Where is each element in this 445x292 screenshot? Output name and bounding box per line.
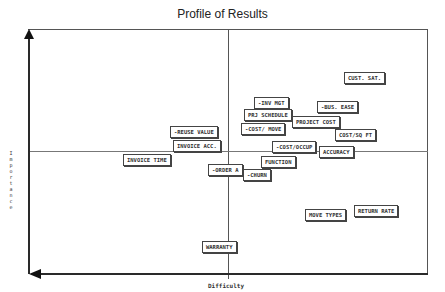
data-point-label: PROJECT COST: [292, 116, 340, 128]
data-point-label: RETURN RATE: [354, 205, 398, 217]
data-point-label: -ORDER A: [208, 164, 243, 176]
data-point-label: -CHURN: [243, 169, 271, 181]
data-point-label: COST/SQ FT: [335, 129, 376, 141]
data-point-label: -INV MGT: [254, 97, 289, 109]
horizontal-midline: [28, 151, 428, 152]
arrow-up-icon: [24, 29, 34, 39]
data-point-label: INVOICE TIME: [123, 154, 171, 166]
data-point-label: CUST. SAT.: [344, 72, 385, 84]
data-point-label: PRJ SCHEDULE: [244, 109, 292, 121]
data-point-label: FUNCTION: [261, 156, 296, 168]
x-axis: [36, 273, 428, 275]
data-point-label: -COST/OCCUP: [272, 141, 316, 153]
y-axis: [28, 34, 30, 274]
x-axis-label: Difficulty: [196, 282, 256, 289]
data-point-label: ACCURACY: [319, 146, 354, 158]
y-axis-label: Importance: [8, 150, 14, 210]
data-point-label: -BUS. EASE: [317, 101, 358, 113]
data-point-label: WARRANTY: [202, 241, 237, 253]
data-point-label: MOVE TYPES: [305, 209, 346, 221]
chart-title: Profile of Results: [0, 7, 445, 21]
data-point-label: INVOICE ACC.: [173, 140, 221, 152]
chart-root: Profile of Results Importance Difficulty…: [0, 0, 445, 292]
data-point-label: -REUSE VALUE: [170, 126, 218, 138]
frame-right: [427, 29, 428, 275]
arrow-left-icon: [29, 269, 41, 279]
data-point-label: -COST/ MOVE: [241, 123, 285, 135]
